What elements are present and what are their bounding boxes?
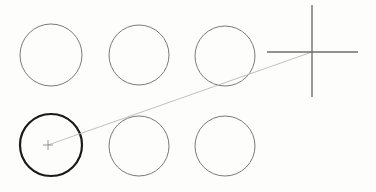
leader-line (48, 52, 312, 145)
circle-top-1[interactable] (20, 24, 82, 86)
circle-bottom-2[interactable] (109, 116, 169, 176)
circle-top-3[interactable] (195, 26, 255, 86)
circle-bottom-3[interactable] (195, 116, 255, 176)
vector-drawing (0, 0, 376, 192)
drawing-canvas[interactable] (0, 0, 376, 192)
circle-top-2[interactable] (109, 25, 169, 85)
